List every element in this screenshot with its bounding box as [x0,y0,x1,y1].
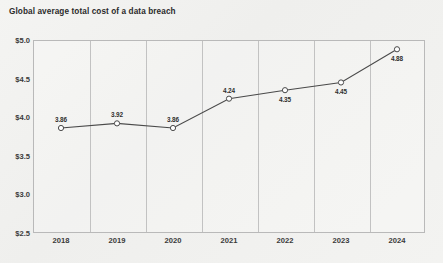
x-axis-tick: 2018 [53,236,70,245]
chart-title: Global average total cost of a data brea… [9,7,176,16]
x-axis-tick: 2022 [277,236,294,245]
x-axis-tick: 2019 [109,236,126,245]
data-point-label: 3.86 [167,116,179,123]
x-axis-tick: 2020 [165,236,182,245]
data-point-marker [226,96,231,101]
data-point-marker [58,125,63,130]
data-point-label: 4.88 [391,55,403,62]
y-axis-tick: $2.5 [0,229,30,238]
y-axis-tick-labels: $5.0$4.5$4.0$3.5$3.0$2.5 [0,40,30,233]
x-axis-tick: 2021 [221,236,238,245]
data-point-marker [282,88,287,93]
line-series [33,40,425,233]
data-point-marker [170,125,175,130]
data-point-marker [338,80,343,85]
x-axis-tick: 2024 [389,236,406,245]
y-axis-tick: $5.0 [0,36,30,45]
data-point-label: 4.45 [335,88,347,95]
data-point-label: 3.86 [55,116,67,123]
chart-card: Global average total cost of a data brea… [0,0,443,263]
y-axis-tick: $4.5 [0,74,30,83]
data-point-marker [114,121,119,126]
data-point-marker [394,47,399,52]
data-point-label: 3.92 [111,111,123,118]
y-axis-tick: $3.5 [0,151,30,160]
x-axis-tick-labels: 2018201920202021202220232024 [33,236,425,254]
x-axis-tick: 2023 [333,236,350,245]
data-point-label: 4.35 [279,96,291,103]
data-point-label: 4.24 [223,87,235,94]
y-axis-tick: $4.0 [0,113,30,122]
y-axis-tick: $3.0 [0,190,30,199]
